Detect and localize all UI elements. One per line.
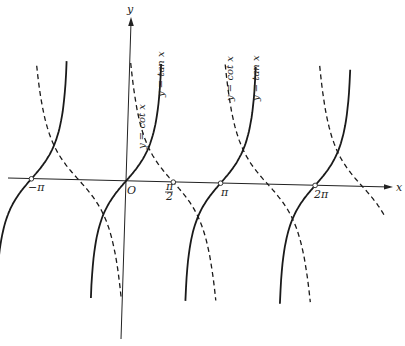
marked-point-3 [313,183,318,188]
cot-branch-3 [320,66,385,216]
x-axis [8,178,390,187]
label-tan-1: y = tan x [155,51,166,98]
marked-points [29,177,317,188]
fraction-denominator: 2 [165,190,173,203]
origin-label: O [127,184,136,197]
label-cot-1: y = cot x [136,104,147,150]
tick-label-2pi: 2π [313,188,329,201]
label-cot-2: y = cot x [224,56,235,102]
tan-cot-chart: y x O −π π 2 π 2π y = cot x y = tan x y … [0,0,405,346]
marked-point-2 [218,181,223,186]
y-axis-arrow-icon [128,17,134,26]
x-axis-label: x [396,181,403,194]
y-axis-label: y [126,3,134,16]
label-tan-2: y = tan x [250,55,261,102]
tick-label-neg-pi: −π [28,181,45,194]
marked-point-0 [29,177,34,182]
cot-branch-0 [37,66,122,299]
tan-branch-0 [0,61,67,256]
marked-point-1 [171,180,176,185]
tick-label-pi: π [220,186,229,199]
x-axis-arrow-icon [384,184,393,189]
